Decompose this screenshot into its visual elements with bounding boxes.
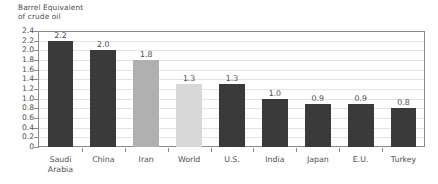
bar: [262, 99, 288, 147]
x-axis-labels: Saudi ArabiaChinaIranWorldU.S.IndiaJapan…: [39, 155, 425, 181]
bar-value-label: 0.8: [382, 99, 425, 107]
x-tick-mark: [82, 148, 83, 152]
y-tick-label: 2.2: [22, 37, 34, 45]
x-tick-mark: [253, 148, 254, 152]
bar: [176, 84, 202, 147]
bar-slot: 1.3: [211, 31, 254, 147]
x-tick-mark: [339, 148, 340, 152]
bar-value-label: 1.3: [168, 75, 211, 83]
bar-slot: 1.0: [253, 31, 296, 147]
bar-value-label: 1.3: [211, 75, 254, 83]
bars-layer: 2.22.01.81.31.31.00.90.90.8: [39, 31, 425, 147]
y-tick-label: 2.4: [22, 27, 34, 35]
bar-slot: 1.8: [125, 31, 168, 147]
bar-value-label: 1.0: [253, 90, 296, 98]
y-tick-label: 1.8: [22, 56, 34, 64]
y-tick-label: 1.6: [22, 66, 34, 74]
bar-slot: 0.9: [296, 31, 339, 147]
x-axis-category-label: Iran: [125, 155, 168, 165]
y-tick-label: 0.6: [22, 114, 34, 122]
x-tick-mark: [125, 148, 126, 152]
bar: [219, 84, 245, 147]
bar: [48, 41, 74, 147]
bar-chart-figure: Barrel Equivalent of crude oil 2.42.22.0…: [0, 0, 438, 184]
bar: [391, 108, 417, 147]
x-tick-mark: [168, 148, 169, 152]
x-axis-category-label: World: [168, 155, 211, 165]
x-axis-category-label: Japan: [296, 155, 339, 165]
bar-slot: 2.0: [82, 31, 125, 147]
bar-slot: 0.8: [382, 31, 425, 147]
x-tick-mark: [382, 148, 383, 152]
y-tick-label: 0.8: [22, 104, 34, 112]
bar-slot: 1.3: [168, 31, 211, 147]
x-axis-category-label: Saudi Arabia: [39, 155, 82, 176]
x-tick-mark: [211, 148, 212, 152]
x-axis-category-label: U.S.: [211, 155, 254, 165]
y-tick-label: 1.4: [22, 75, 34, 83]
x-axis-category-label: E.U.: [339, 155, 382, 165]
y-tick-label: 1.0: [22, 95, 34, 103]
bar-value-label: 0.9: [339, 95, 382, 103]
y-tick-label: 0.2: [22, 133, 34, 141]
bar: [133, 60, 159, 147]
x-axis-category-label: India: [253, 155, 296, 165]
y-tick-label: 1.2: [22, 85, 34, 93]
bar-slot: 0.9: [339, 31, 382, 147]
bar-value-label: 2.0: [82, 41, 125, 49]
y-tick-label: 0: [29, 143, 34, 151]
bar: [305, 104, 331, 148]
bar: [90, 50, 116, 147]
y-tick-label: 2.0: [22, 46, 34, 54]
x-axis-category-label: Turkey: [382, 155, 425, 165]
bar-value-label: 1.8: [125, 51, 168, 59]
bar-value-label: 0.9: [296, 95, 339, 103]
bar: [348, 104, 374, 148]
bar-value-label: 2.2: [39, 32, 82, 40]
x-axis-category-label: China: [82, 155, 125, 165]
x-tick-mark: [296, 148, 297, 152]
y-tick-mark: [34, 147, 38, 148]
y-tick-label: 0.4: [22, 124, 34, 132]
chart-title: Barrel Equivalent of crude oil: [18, 3, 83, 21]
bar-slot: 2.2: [39, 31, 82, 147]
